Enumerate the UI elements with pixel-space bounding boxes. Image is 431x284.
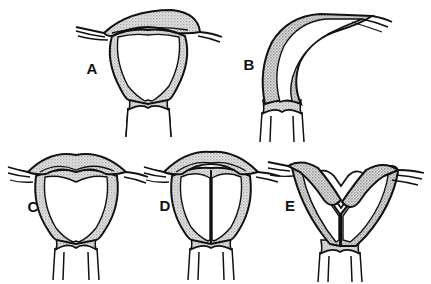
panel-d-label: D bbox=[160, 197, 171, 214]
figure-plate: A B bbox=[0, 0, 431, 284]
panel-a-label: A bbox=[87, 60, 98, 77]
panel-a-vagina bbox=[126, 104, 171, 137]
uterine-variants-illustration: A B bbox=[0, 0, 431, 284]
panel-c-label: C bbox=[28, 198, 39, 215]
panel-e-label: E bbox=[285, 197, 295, 214]
panel-b-label: B bbox=[244, 56, 255, 73]
